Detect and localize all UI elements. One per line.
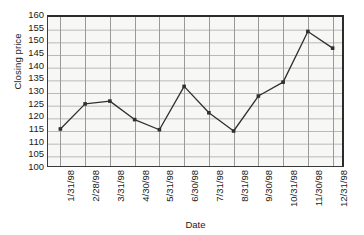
data-point-marker	[158, 128, 162, 132]
y-axis-tick-label: 140	[20, 61, 44, 71]
x-axis-tick-label: 7/31/98	[214, 170, 226, 222]
x-axis-tick-label: 12/31/98	[338, 170, 350, 222]
x-axis-tick-label: 11/30/98	[313, 170, 325, 222]
data-point-marker	[281, 80, 285, 84]
x-axis-title: Date	[47, 219, 344, 230]
data-point-marker	[108, 99, 112, 103]
data-point-marker	[182, 85, 186, 89]
data-point-marker	[133, 118, 137, 122]
x-axis-tick-label: 9/30/98	[263, 170, 275, 222]
data-point-marker	[306, 30, 310, 34]
gridlines	[48, 17, 344, 167]
x-axis-tick-label: 10/31/98	[288, 170, 300, 222]
y-axis-tick-label: 145	[20, 48, 44, 58]
x-axis-tick-label: 4/30/98	[140, 170, 152, 222]
y-axis-tick-labels: 160155150145140135130125120115110105100	[20, 15, 44, 167]
data-point-marker	[59, 127, 63, 131]
y-axis-tick-label: 135	[20, 73, 44, 83]
x-axis-tick-label: 5/31/98	[164, 170, 176, 222]
y-axis-tick-label: 100	[20, 162, 44, 172]
y-axis-tick-label: 115	[20, 124, 44, 134]
x-axis-tick-labels: 1/31/982/28/983/31/984/30/985/31/986/30/…	[47, 167, 344, 217]
x-axis-tick-label: 6/30/98	[189, 170, 201, 222]
y-axis-tick-label: 120	[20, 111, 44, 121]
x-axis-tick-label: 1/31/98	[65, 170, 77, 222]
x-axis-tick-label: 3/31/98	[115, 170, 127, 222]
data-point-marker	[232, 129, 236, 133]
plot-svg	[48, 17, 344, 167]
y-axis-tick-label: 110	[20, 137, 44, 147]
data-point-marker	[83, 102, 87, 106]
y-axis-tick-label: 160	[20, 10, 44, 20]
y-axis-tick-label: 150	[20, 35, 44, 45]
plot-area	[47, 15, 344, 167]
y-axis-tick-label: 125	[20, 99, 44, 109]
y-axis-tick-label: 155	[20, 23, 44, 33]
y-axis-tick-label: 105	[20, 149, 44, 159]
line-chart: Closing price 16015515014514013513012512…	[0, 0, 364, 235]
x-axis-tick-label: 2/28/98	[90, 170, 102, 222]
data-point-marker	[207, 111, 211, 115]
data-point-marker	[257, 94, 261, 98]
y-axis-tick-label: 130	[20, 86, 44, 96]
x-axis-tick-label: 8/31/98	[239, 170, 251, 222]
data-point-marker	[331, 46, 335, 50]
